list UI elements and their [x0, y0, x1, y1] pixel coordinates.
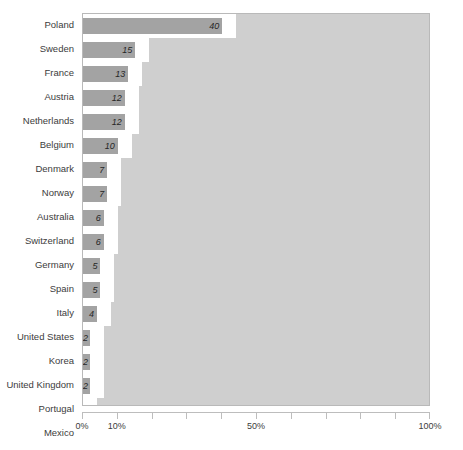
axis-tick-label: 100% — [418, 421, 441, 431]
bar-row: 7 — [83, 182, 429, 206]
bar-value-label: 2 — [83, 354, 90, 370]
category-label-column: PolandSwedenFranceAustriaNetherlandsBelg… — [0, 13, 78, 445]
bar-row: 5 — [83, 254, 429, 278]
bar-row: 6 — [83, 230, 429, 254]
bar-row: 4 — [83, 302, 429, 326]
category-label: Korea — [0, 349, 78, 373]
category-label: Spain — [0, 277, 78, 301]
axis-tick — [117, 412, 118, 419]
category-label: Austria — [0, 85, 78, 109]
bar-row: 12 — [83, 86, 429, 110]
axis-tick — [326, 412, 327, 419]
category-label: Sweden — [0, 37, 78, 61]
category-label: Germany — [0, 253, 78, 277]
bar-row: 6 — [83, 206, 429, 230]
bar-value-label: 2 — [83, 330, 90, 346]
bar-value-label: 10 — [83, 138, 118, 154]
category-label: Italy — [0, 301, 78, 325]
bar-value-label: 40 — [83, 18, 222, 34]
category-label: Switzerland — [0, 229, 78, 253]
bar-value-label: 12 — [83, 90, 125, 106]
bar-row: 15 — [83, 38, 429, 62]
x-axis: 0%10%50%100% — [82, 412, 430, 413]
bar-value-label: 13 — [83, 66, 128, 82]
bar-value-label: 6 — [83, 234, 104, 250]
bar-value-label: 2 — [83, 378, 90, 394]
bar-value-label: 5 — [83, 258, 100, 274]
axis-tick — [291, 412, 292, 419]
axis-tick — [152, 412, 153, 419]
bar-row: 0 — [83, 398, 429, 406]
bar-row: 12 — [83, 110, 429, 134]
horizontal-bar-chart: PolandSwedenFranceAustriaNetherlandsBelg… — [0, 0, 463, 450]
category-label: Norway — [0, 181, 78, 205]
bar-row: 2 — [83, 326, 429, 350]
bar-value-label: 4 — [83, 306, 97, 322]
axis-tick — [82, 412, 83, 419]
bar-value-label: 6 — [83, 210, 104, 226]
category-label: Netherlands — [0, 109, 78, 133]
bar-row: 13 — [83, 62, 429, 86]
axis-tick — [360, 412, 361, 419]
bar-row: 7 — [83, 158, 429, 182]
category-label: France — [0, 61, 78, 85]
bar-value-label: 0 — [85, 402, 90, 406]
bar-row: 5 — [83, 278, 429, 302]
bar-value-label: 5 — [83, 282, 100, 298]
bar-row: 10 — [83, 134, 429, 158]
category-label: Denmark — [0, 157, 78, 181]
bar-value-label: 7 — [83, 186, 107, 202]
bar-value-label: 15 — [83, 42, 135, 58]
axis-tick — [256, 412, 257, 419]
bar-row: 2 — [83, 374, 429, 398]
bar-value-label: 12 — [83, 114, 125, 130]
category-label: Mexico — [0, 421, 78, 445]
category-label: Poland — [0, 13, 78, 37]
axis-tick-label: 50% — [247, 421, 265, 431]
category-label: United Kingdom — [0, 373, 78, 397]
category-label: United States — [0, 325, 78, 349]
axis-tick — [395, 412, 396, 419]
axis-tick — [429, 412, 430, 419]
axis-tick-label: 0% — [75, 421, 88, 431]
category-label: Australia — [0, 205, 78, 229]
axis-tick-label: 10% — [108, 421, 126, 431]
axis-tick — [186, 412, 187, 419]
bar-value-label: 7 — [83, 162, 107, 178]
bar-row: 40 — [83, 14, 429, 38]
bar-row: 2 — [83, 350, 429, 374]
category-label: Portugal — [0, 397, 78, 421]
plot-panel: 401513121210776655422200 — [82, 13, 430, 406]
axis-tick — [221, 412, 222, 419]
category-label: Belgium — [0, 133, 78, 157]
